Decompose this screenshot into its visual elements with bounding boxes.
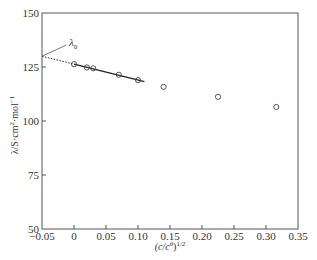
y-tick-label: 150 — [23, 7, 40, 19]
lambda0-pointer — [42, 45, 66, 56]
y-axis-label-sup2: −1 — [8, 95, 16, 103]
x-tick-label: 0.35 — [288, 230, 308, 242]
data-points — [71, 62, 278, 110]
x-tick-label: 0.20 — [192, 230, 212, 242]
lambda0-subscript: 0 — [74, 43, 78, 51]
y-axis-label: λ/S·cm2·mol−1 — [8, 95, 20, 154]
data-point — [274, 104, 279, 109]
x-tick-label: 0.25 — [224, 230, 244, 242]
chart: −0.0500.050.100.150.200.250.300.35 50751… — [0, 0, 317, 260]
y-tick-label: 50 — [28, 223, 40, 235]
fit-lines — [42, 56, 144, 81]
x-tick-label: 0 — [71, 230, 77, 242]
fit-line-extrapolation — [42, 56, 74, 64]
lambda0-label: λ0 — [68, 36, 78, 51]
y-axis-label-base: λ/S·cm — [9, 125, 20, 154]
x-axis-label: (c/cθ)1/2 — [155, 240, 186, 253]
y-tick-label: 100 — [23, 115, 40, 127]
plot-border — [42, 13, 298, 229]
data-point — [215, 94, 220, 99]
x-tick-label: 0.30 — [256, 230, 276, 242]
data-point — [161, 84, 166, 89]
x-axis-label-base: (c/c — [155, 241, 171, 253]
x-axis-label-sup2: 1/2 — [176, 240, 185, 248]
x-tick-label: 0.05 — [96, 230, 116, 242]
y-axis-label-mid: ·mol — [9, 103, 20, 122]
annotations: λ0 — [42, 36, 78, 56]
x-tick-label: 0.10 — [128, 230, 148, 242]
y-tick-label: 125 — [23, 61, 40, 73]
y-tick-label: 75 — [28, 169, 40, 181]
plot-frame — [42, 13, 298, 229]
